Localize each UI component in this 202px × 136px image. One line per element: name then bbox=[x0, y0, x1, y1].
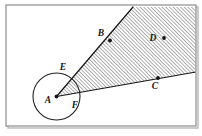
point-B-label: B bbox=[97, 28, 104, 38]
point-B-dot bbox=[108, 39, 112, 43]
point-D-label: D bbox=[149, 33, 157, 43]
point-C-dot bbox=[156, 76, 160, 80]
point-E-label: E bbox=[59, 62, 66, 72]
figure-canvas: A B C D E F bbox=[0, 0, 202, 136]
point-F-label: F bbox=[71, 100, 79, 110]
point-C-label: C bbox=[152, 81, 159, 91]
geometry-figure: A B C D E F bbox=[0, 0, 202, 136]
point-D-dot bbox=[162, 36, 166, 40]
point-A-label: A bbox=[44, 95, 51, 105]
point-A-dot bbox=[55, 95, 59, 99]
